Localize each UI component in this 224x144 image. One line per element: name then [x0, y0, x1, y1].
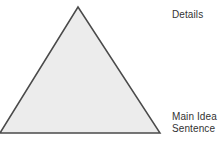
triangle-polygon	[0, 7, 160, 133]
diagram-canvas: Details Main Idea Sentence	[0, 0, 224, 144]
label-main-idea-line2: Sentence	[172, 123, 217, 135]
label-main-idea-sentence: Main Idea Sentence	[172, 111, 217, 135]
label-main-idea-line1: Main Idea	[172, 111, 217, 123]
label-details: Details	[172, 9, 203, 21]
